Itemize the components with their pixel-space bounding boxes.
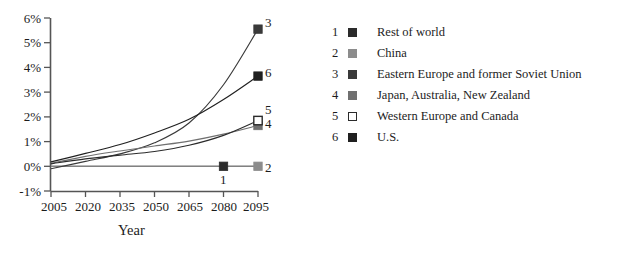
legend-label: Eastern Europe and former Soviet Union [377, 68, 581, 81]
x-tick-label: 2020 [75, 199, 101, 214]
x-tick-label: 2035 [109, 199, 135, 214]
y-axis-tick-labels: 6% 5% 4% 3% 2% 1% 0% -1% [19, 11, 41, 199]
y-tick-label: 0% [24, 159, 42, 174]
legend-swatch-icon [348, 28, 357, 37]
legend-index: 1 [332, 26, 348, 39]
series-line-4 [51, 126, 258, 164]
legend-swatch-icon [348, 112, 357, 121]
x-tick-label: 2005 [41, 199, 67, 214]
legend-item-4[interactable]: 4Japan, Australia, New Zealand [332, 85, 637, 106]
y-tick-label: 3% [24, 85, 42, 100]
legend-swatch-icon [348, 70, 357, 79]
y-tick-label: -1% [19, 184, 41, 199]
y-tick-label: 5% [24, 35, 42, 50]
point-label-1: 1 [220, 172, 227, 187]
point-number-labels: 3 6 5 4 1 2 [220, 15, 272, 187]
legend-label: Rest of world [377, 26, 445, 39]
legend-item-2[interactable]: 2China [332, 43, 637, 64]
legend-swatch-icon [348, 133, 357, 142]
point-label-5: 5 [265, 102, 272, 117]
x-tick-label: 2080 [211, 199, 237, 214]
series-line-6 [51, 76, 258, 162]
point-label-3: 3 [265, 15, 272, 30]
x-axis-tick-labels: 2005 2020 2035 2050 2065 2080 2095 [41, 199, 269, 214]
legend-index: 3 [332, 68, 348, 81]
point-label-4: 4 [265, 116, 272, 131]
point-label-2: 2 [265, 160, 272, 175]
legend-label: Japan, Australia, New Zealand [377, 89, 530, 102]
series-end-marker-1 [219, 162, 227, 170]
legend-item-3[interactable]: 3Eastern Europe and former Soviet Union [332, 64, 637, 85]
legend-item-1[interactable]: 1Rest of world [332, 22, 637, 43]
y-tick-label: 4% [24, 60, 42, 75]
y-axis-ticks [44, 18, 50, 191]
legend-item-5[interactable]: 5Western Europe and Canada [332, 106, 637, 127]
legend-index: 4 [332, 89, 348, 102]
series-end-marker-2 [254, 162, 262, 170]
legend-swatch-icon [348, 91, 357, 100]
figure-container: 6% 5% 4% 3% 2% 1% 0% -1% 2005 [0, 0, 639, 254]
chart-legend: 1Rest of world2China3Eastern Europe and … [332, 22, 637, 148]
x-tick-label: 2050 [143, 199, 169, 214]
y-tick-label: 6% [24, 11, 42, 26]
point-label-6: 6 [265, 65, 272, 80]
y-tick-label: 1% [24, 134, 42, 149]
x-tick-label: 2065 [177, 199, 203, 214]
series-line-3 [51, 29, 258, 169]
series-layer [51, 29, 258, 169]
legend-label: U.S. [377, 131, 399, 144]
legend-index: 5 [332, 110, 348, 123]
legend-index: 6 [332, 131, 348, 144]
x-tick-label: 2095 [243, 199, 269, 214]
legend-swatch-icon [348, 49, 357, 58]
series-end-marker-6 [254, 72, 262, 80]
legend-index: 2 [332, 47, 348, 60]
chart-plot-area: 6% 5% 4% 3% 2% 1% 0% -1% 2005 [0, 0, 300, 254]
legend-label: Western Europe and Canada [377, 110, 519, 123]
legend-label: China [377, 47, 407, 60]
legend-item-6[interactable]: 6U.S. [332, 127, 637, 148]
series-end-marker-3 [254, 25, 262, 33]
line-chart-svg: 6% 5% 4% 3% 2% 1% 0% -1% 2005 [0, 0, 300, 254]
y-tick-label: 2% [24, 109, 42, 124]
series-end-marker-5 [254, 116, 262, 124]
x-axis-title: Year [118, 222, 145, 239]
